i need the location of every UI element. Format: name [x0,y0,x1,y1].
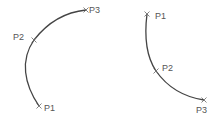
point-label-p3: P3 [196,105,207,115]
arc-right: P1 P2 P3 [145,11,208,115]
point-marker-p2 [154,69,159,74]
arc-diagrams: P1 P2 P3 P1 P2 P3 [0,0,219,127]
point-label-p2: P2 [13,32,24,42]
point-marker-p1 [37,104,42,109]
point-label-p1: P1 [44,103,55,113]
point-label-p1: P1 [155,11,166,21]
arc-left-curve [25,10,86,106]
point-marker-p2 [32,38,37,43]
point-label-p2: P2 [162,63,173,73]
arc-left: P1 P2 P3 [13,5,100,113]
arc-right-curve [146,14,204,100]
point-label-p3: P3 [89,5,100,15]
